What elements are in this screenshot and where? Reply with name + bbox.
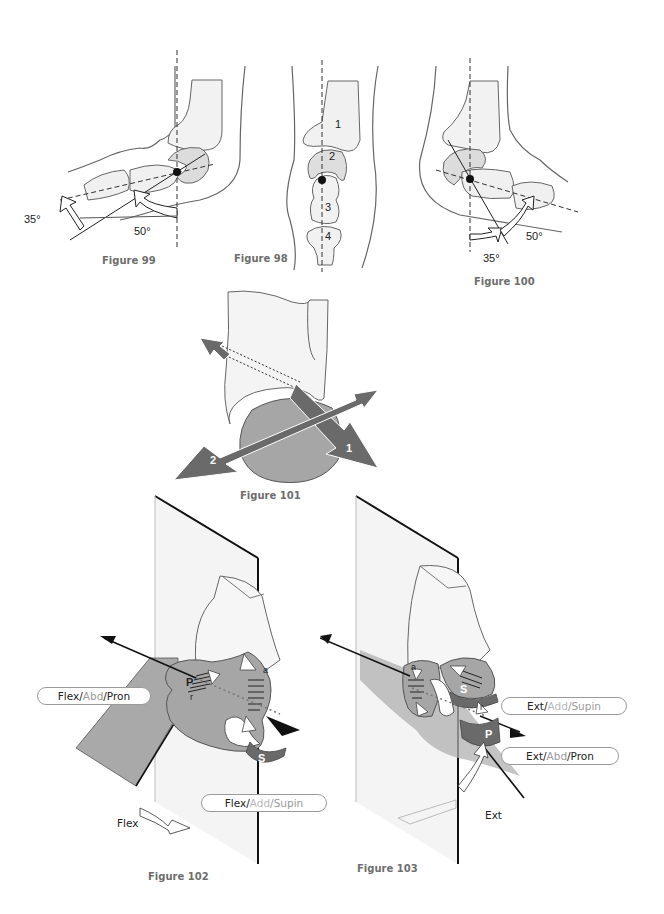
pill-part-abd: Abd xyxy=(83,690,104,702)
figure-102-caption: Figure 102 xyxy=(148,871,209,882)
pill-part-flex: Flex/ xyxy=(225,797,250,809)
angle-label-35: 35° xyxy=(24,213,41,225)
axis-label-2: 2 xyxy=(210,454,216,466)
motion-label-ext: Ext xyxy=(485,809,502,821)
figure-100-caption: Figure 100 xyxy=(474,276,535,287)
figure-98: 1 2 3 4 Figure 98 xyxy=(270,0,400,280)
figure-102: P r a S Flex/Abd/Pron Flex/Add/Supin Fle… xyxy=(0,480,330,914)
pill-part-pron: /Pron xyxy=(103,690,130,702)
figure-99-illustration xyxy=(0,0,270,280)
pill-part-add: Add xyxy=(250,797,270,809)
pill-part-abd: Abd xyxy=(547,750,568,762)
figure-100-illustration xyxy=(400,0,600,300)
pill-part-ext: Ext/ xyxy=(526,750,547,762)
label-flex-add-supin: Flex/Add/Supin xyxy=(201,794,327,812)
bone-label-1: 1 xyxy=(335,118,341,130)
pill-part-ext: Ext/ xyxy=(527,700,548,712)
figure-101: 1 2 Figure 101 xyxy=(160,290,420,500)
glyph-r: r xyxy=(480,702,483,712)
figure-98-illustration xyxy=(270,0,400,280)
glyph-a: a xyxy=(411,662,416,672)
figure-99-caption: Figure 99 xyxy=(102,255,156,266)
pill-part-supin: /Supin xyxy=(270,797,303,809)
figure-103: a S r P Ext/ Add/Supin Ext/ Abd/Pron Ext… xyxy=(320,480,664,914)
angle-label-50: 50° xyxy=(526,230,543,242)
figure-100: 50° 35° Figure 100 xyxy=(400,0,600,300)
angle-label-50: 50° xyxy=(134,225,151,237)
angle-label-35: 35° xyxy=(483,252,500,264)
pill-part-supin: /Supin xyxy=(568,700,601,712)
figure-103-caption: Figure 103 xyxy=(357,863,418,874)
bone-label-2: 2 xyxy=(329,150,335,162)
label-ext-abd-pron: Ext/ Abd/Pron xyxy=(501,747,619,765)
glyph-s: S xyxy=(258,752,265,764)
label-ext-add-supin: Ext/ Add/Supin xyxy=(501,697,627,715)
pill-part-pron: /Pron xyxy=(567,750,594,762)
axis-label-1: 1 xyxy=(346,442,352,454)
glyph-a: a xyxy=(263,665,268,675)
glyph-p: P xyxy=(186,676,193,688)
pill-part-flex: Flex/ xyxy=(58,690,83,702)
figure-101-illustration xyxy=(160,290,420,500)
glyph-p: P xyxy=(485,728,492,740)
glyph-r: r xyxy=(190,692,193,702)
pill-part-add: Add xyxy=(548,700,568,712)
figure-98-caption: Figure 98 xyxy=(234,253,288,264)
figure-99: 35° 50° Figure 99 xyxy=(0,0,270,280)
glyph-s: S xyxy=(460,683,467,695)
bone-label-4: 4 xyxy=(325,230,331,242)
label-flex-abd-pron: Flex/Abd/Pron xyxy=(37,687,151,705)
bone-label-3: 3 xyxy=(325,201,331,213)
motion-label-flex: Flex xyxy=(117,817,138,829)
